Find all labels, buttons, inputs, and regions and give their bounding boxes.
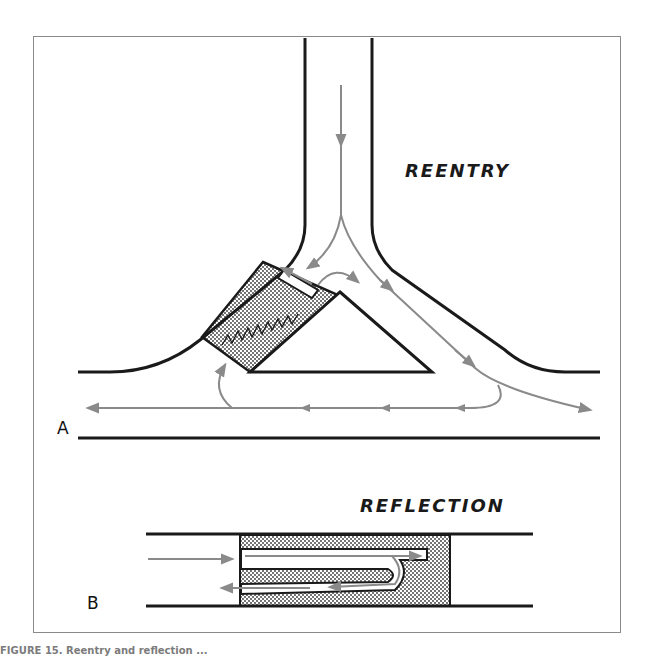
left-branch-arrow (308, 215, 341, 268)
short-right-arrow (318, 273, 358, 285)
reentry-reflection-diagram (0, 0, 657, 657)
panel-label-a: A (57, 418, 69, 438)
reentry-up-arrow (219, 365, 232, 408)
arrowhead-3 (300, 404, 310, 412)
mid-right-arrow (380, 280, 392, 290)
panel-label-b: B (87, 593, 99, 613)
reflection-title: REFLECTION (360, 495, 505, 516)
reentry-loop (88, 385, 501, 408)
arrowhead-1 (455, 404, 465, 412)
lower-right-arrow (455, 350, 474, 366)
reentry-title: REENTRY (405, 160, 510, 181)
right-wall (372, 38, 600, 372)
depressed-segment-b (240, 535, 450, 606)
right-branch-arrow (341, 215, 590, 410)
arrowhead-2 (380, 404, 390, 412)
panel-a-reentry (78, 38, 600, 438)
figure-caption: FIGURE 15. Reentry and reflection ... (0, 645, 208, 656)
panel-b-reflection (146, 534, 533, 606)
